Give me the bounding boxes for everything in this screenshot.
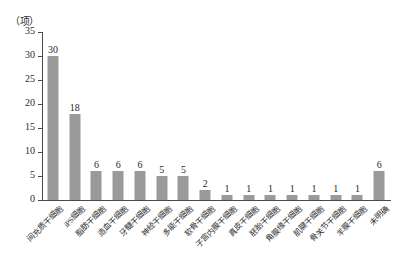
- bar-value-label: 1: [290, 183, 295, 194]
- bar-value-label: 5: [181, 164, 186, 175]
- bar-slot: 1: [260, 32, 282, 200]
- y-axis-tick-label: 35: [25, 25, 35, 36]
- y-axis-tick-label: 10: [25, 145, 35, 156]
- bar-chart: （项） 05101520253035 301866655211111116 间充…: [0, 0, 404, 270]
- bar-value-label: 1: [246, 183, 251, 194]
- bar: [91, 171, 102, 200]
- bar: [352, 195, 363, 200]
- bar: [134, 171, 145, 200]
- bar-value-label: 1: [333, 183, 338, 194]
- bar-value-label: 6: [137, 159, 142, 170]
- bar-slot: 1: [325, 32, 347, 200]
- bar-value-label: 6: [116, 159, 121, 170]
- y-axis-tick-label: 20: [25, 97, 35, 108]
- bar: [265, 195, 276, 200]
- x-axis-line: [42, 200, 391, 201]
- bar-slot: 18: [64, 32, 86, 200]
- bar: [374, 171, 385, 200]
- x-axis-category-label: 间充质干细胞: [24, 203, 65, 244]
- bar: [178, 176, 189, 200]
- y-axis-tick-label: 0: [30, 193, 35, 204]
- bar-slot: 2: [194, 32, 216, 200]
- bar-slot: 1: [303, 32, 325, 200]
- bar: [308, 195, 319, 200]
- bar: [200, 190, 211, 200]
- y-axis-tick-label: 30: [25, 49, 35, 60]
- bar-value-label: 1: [355, 183, 360, 194]
- bar-slot: 6: [86, 32, 108, 200]
- y-axis-tick-label: 5: [30, 169, 35, 180]
- bar: [243, 195, 254, 200]
- bar: [47, 56, 58, 200]
- bar-slot: 6: [129, 32, 151, 200]
- bar: [69, 114, 80, 200]
- bar-value-label: 18: [70, 102, 80, 113]
- bar-slot: 6: [107, 32, 129, 200]
- bar-value-label: 1: [224, 183, 229, 194]
- bar-value-label: 30: [48, 44, 58, 55]
- bar-slot: 5: [173, 32, 195, 200]
- y-axis-tick-label: 15: [25, 121, 35, 132]
- y-axis-tick-label: 25: [25, 73, 35, 84]
- x-axis-category-label: 未明确: [367, 203, 391, 227]
- bar: [330, 195, 341, 200]
- bar: [156, 176, 167, 200]
- bar-slot: 1: [216, 32, 238, 200]
- bar-value-label: 1: [268, 183, 273, 194]
- bar-value-label: 6: [94, 159, 99, 170]
- bar-series: 301866655211111116: [42, 32, 390, 200]
- bar-value-label: 2: [203, 178, 208, 189]
- bar: [113, 171, 124, 200]
- bar-value-label: 5: [159, 164, 164, 175]
- bar-slot: 1: [238, 32, 260, 200]
- bar-value-label: 6: [377, 159, 382, 170]
- bar-slot: 1: [281, 32, 303, 200]
- bar: [287, 195, 298, 200]
- plot-area: 05101520253035 301866655211111116: [42, 32, 390, 200]
- bar: [221, 195, 232, 200]
- bar-slot: 1: [347, 32, 369, 200]
- bar-slot: 5: [151, 32, 173, 200]
- bar-slot: 30: [42, 32, 64, 200]
- bar-slot: 6: [368, 32, 390, 200]
- bar-value-label: 1: [311, 183, 316, 194]
